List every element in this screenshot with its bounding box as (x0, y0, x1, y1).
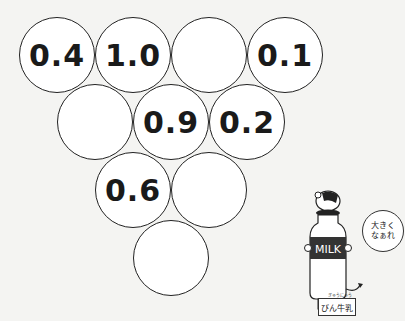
circle-value: 0.9 (143, 105, 199, 140)
speech-line-2: なぁれ (363, 231, 403, 241)
circle-r4c1[interactable] (133, 220, 209, 296)
circle-value: 0.2 (219, 105, 275, 140)
circle-value: 1.0 (105, 38, 161, 73)
circle-r2c1[interactable] (57, 84, 133, 160)
circle-value: 0.6 (105, 173, 161, 208)
circle-r3c2[interactable] (171, 152, 247, 228)
circle-r3c1[interactable]: 0.6 (95, 152, 171, 228)
speech-line-1: 大きく (363, 221, 403, 231)
circle-r1c1[interactable]: 0.4 (19, 17, 95, 93)
bottle-label: MILK (315, 243, 342, 256)
name-label-text: びん牛乳 (321, 302, 353, 313)
circle-value: 0.4 (29, 38, 85, 73)
circle-r2c3[interactable]: 0.2 (209, 84, 285, 160)
circle-r1c4[interactable]: 0.1 (247, 17, 323, 93)
circle-value: 0.1 (257, 38, 313, 73)
speech-bubble: 大きく なぁれ (362, 210, 404, 252)
circle-r1c2[interactable]: 1.0 (95, 17, 171, 93)
name-label: びん牛乳 (318, 298, 356, 316)
circle-r1c3[interactable] (171, 17, 247, 93)
circle-r2c2[interactable]: 0.9 (133, 84, 209, 160)
